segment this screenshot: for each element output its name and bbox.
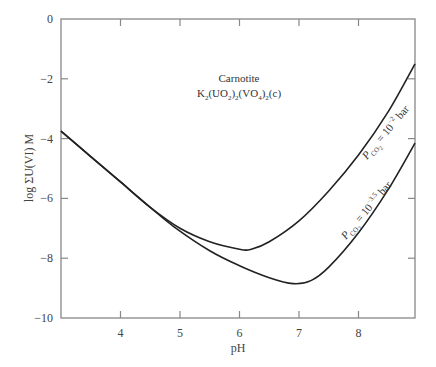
plot-frame xyxy=(61,19,415,318)
y-tick-label: −6 xyxy=(40,191,53,205)
solubility-chart: 456780−2−4−6−8−10 pH log ΣU(VI) M Carnot… xyxy=(0,0,436,367)
curve-label-pco2-1e-2: PCO2 = 10−2 bar xyxy=(358,102,415,165)
y-tick-label: 0 xyxy=(47,12,53,26)
annotation-carnotite: Carnotite xyxy=(219,72,260,84)
x-tick-label: 8 xyxy=(356,326,362,340)
plot-border xyxy=(61,19,415,318)
annotation-formula: K2(UO2)2(VO4)2(c) xyxy=(197,87,281,102)
x-tick-label: 6 xyxy=(237,326,243,340)
x-tick-label: 4 xyxy=(118,326,124,340)
x-tick-label: 7 xyxy=(296,326,302,340)
axis-ticks: 456780−2−4−6−8−10 xyxy=(34,12,415,340)
curve-label-pco2-1e-3.5: PCO2 = 10−3.5 bar xyxy=(337,178,397,245)
y-tick-label: −8 xyxy=(40,251,53,265)
y-tick-label: −2 xyxy=(40,72,53,86)
x-axis-label: pH xyxy=(231,341,246,355)
y-axis-label: log ΣU(VI) M xyxy=(22,134,36,203)
x-tick-label: 5 xyxy=(177,326,183,340)
y-tick-label: −4 xyxy=(40,132,53,146)
y-tick-label: −10 xyxy=(34,311,53,325)
